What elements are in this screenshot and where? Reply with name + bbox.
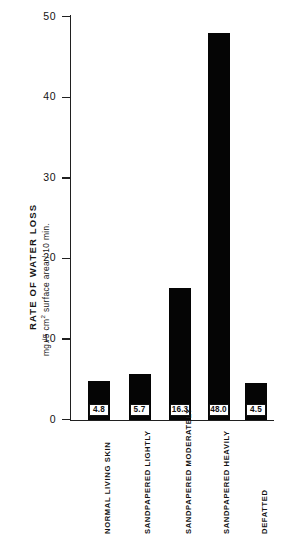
x-axis-category-label: SANDPAPERED LIGHTLY	[143, 430, 152, 534]
x-axis-category-label: SANDPAPERED MODERATELY	[184, 408, 193, 534]
bar-chart: RATE OF WATER LOSS mg./5 cm2 surface are…	[0, 0, 282, 541]
y-axis-tick	[62, 177, 71, 178]
y-axis-tick	[62, 97, 71, 98]
x-axis-line	[70, 420, 274, 421]
y-axis-tick	[62, 16, 71, 17]
y-axis-title-group: RATE OF WATER LOSS mg./5 cm2 surface are…	[0, 0, 46, 420]
y-axis-tick-label: 20	[18, 251, 56, 263]
bar-value-label: 48.0	[209, 404, 229, 416]
y-axis-title-primary: RATE OF WATER LOSS	[27, 204, 38, 330]
y-axis-units-suffix: surface area / 10 min.	[41, 223, 51, 315]
bar-value-label: 4.8	[89, 404, 109, 416]
bar	[169, 288, 191, 419]
y-axis-tick-label: 0	[18, 413, 56, 425]
x-axis-category-label: SANDPAPERED HEAVILY	[222, 430, 231, 534]
bar-value-label: 4.5	[246, 404, 266, 416]
y-axis-tick-label: 50	[18, 10, 56, 22]
bar-value-label: 5.7	[130, 404, 150, 416]
y-axis-tick-label: 30	[18, 171, 56, 183]
y-axis-tick	[62, 258, 71, 259]
y-axis-units-superscript: 2	[39, 315, 46, 319]
y-axis-tick-label: 40	[18, 90, 56, 102]
x-axis-category-label: NORMAL LIVING SKIN	[103, 442, 112, 535]
x-axis-category-label: DEFATTED	[260, 489, 269, 534]
y-axis-tick	[62, 338, 71, 339]
y-axis-tick	[62, 419, 71, 420]
y-axis-tick-label: 10	[18, 332, 56, 344]
y-axis-line	[70, 15, 71, 421]
bar	[208, 33, 230, 420]
